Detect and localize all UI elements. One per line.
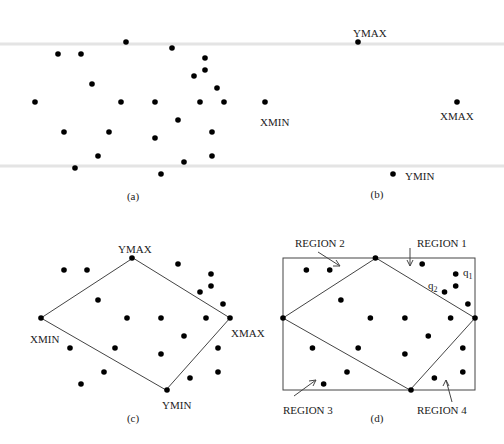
label-xmax-c: XMAX [231, 327, 265, 339]
data-point [61, 129, 67, 135]
data-point [460, 345, 466, 351]
label-q2: q2 [428, 279, 438, 294]
convex-hull-figure: (a) YMAX XMIN XMAX YMIN (b) YMAX XMIN XM… [0, 0, 504, 444]
data-point [425, 333, 431, 339]
data-point [152, 135, 158, 141]
data-point [152, 99, 158, 105]
label-ymax: YMAX [353, 27, 387, 39]
data-point [197, 289, 203, 295]
caption-a: (a) [127, 190, 140, 203]
label-ymax-c: YMAX [118, 243, 152, 255]
data-point [453, 283, 459, 289]
caption-b: (b) [371, 188, 384, 201]
bounding-box [283, 258, 475, 390]
extreme-quadrilateral [41, 258, 230, 390]
data-point [215, 369, 221, 375]
data-point [61, 267, 67, 273]
data-point [129, 255, 135, 261]
data-point [181, 159, 187, 165]
label-region-1: REGION 1 [417, 237, 467, 249]
label-ymin: YMIN [405, 170, 434, 182]
arrow-region-3 [294, 380, 316, 396]
data-point [164, 387, 170, 393]
point-xmax [454, 99, 460, 105]
data-point [327, 267, 333, 273]
data-point [84, 267, 90, 273]
data-point [408, 387, 414, 393]
panel-d-regions [283, 248, 475, 402]
point-ymin [390, 171, 396, 177]
data-point [158, 351, 164, 357]
data-point [373, 255, 379, 261]
point-ymax [355, 39, 361, 45]
data-point [209, 153, 215, 159]
data-point [368, 315, 374, 321]
data-point [197, 99, 203, 105]
data-point [78, 381, 84, 387]
data-point [472, 315, 478, 321]
data-point [442, 289, 448, 295]
label-region-3: REGION 3 [283, 404, 333, 416]
data-point [460, 369, 466, 375]
data-point [344, 369, 350, 375]
data-point [215, 345, 221, 351]
data-point [208, 271, 214, 277]
panel-b-extremes: YMAX XMIN XMAX YMIN [260, 27, 474, 182]
caption-c: (c) [127, 412, 140, 425]
data-point [158, 315, 164, 321]
data-point [158, 171, 164, 177]
label-xmin: XMIN [260, 116, 289, 128]
data-point [448, 315, 454, 321]
data-point [202, 67, 208, 73]
extreme-quadrilateral-d [283, 258, 475, 390]
data-point [95, 153, 101, 159]
data-point [181, 333, 187, 339]
data-point [123, 39, 129, 45]
panel-c-quadrilateral [41, 258, 230, 390]
data-point [355, 345, 361, 351]
data-point [453, 271, 459, 277]
data-point [95, 297, 101, 303]
data-point [402, 315, 408, 321]
data-point [310, 345, 316, 351]
label-region-2: REGION 2 [295, 237, 345, 249]
data-point [465, 301, 471, 307]
data-point [72, 165, 78, 171]
panel-a-point-set [32, 39, 227, 177]
data-point [118, 99, 124, 105]
data-point [214, 85, 220, 91]
data-point [321, 381, 327, 387]
data-point [187, 375, 193, 381]
data-point [32, 99, 38, 105]
data-point [220, 301, 226, 307]
data-point [169, 45, 175, 51]
arrow-region-2 [318, 252, 340, 266]
point-xmin [262, 99, 268, 105]
label-ymin-c: YMIN [162, 399, 191, 411]
data-point [338, 297, 344, 303]
label-q1: q1 [463, 266, 473, 281]
data-point [38, 315, 44, 321]
data-point [402, 351, 408, 357]
data-point [202, 55, 208, 61]
caption-d: (d) [371, 412, 384, 425]
arrow-region-4 [446, 380, 452, 402]
data-point [432, 375, 438, 381]
data-point [191, 73, 197, 79]
data-point [203, 315, 209, 321]
data-point [419, 261, 425, 267]
label-region-4: REGION 4 [417, 404, 467, 416]
data-point [221, 99, 227, 105]
data-point [55, 51, 61, 57]
data-point [227, 315, 233, 321]
data-point [101, 369, 107, 375]
data-point [67, 345, 73, 351]
label-xmin-c: XMIN [30, 333, 59, 345]
data-point [304, 267, 310, 273]
data-point [175, 117, 181, 123]
data-point [124, 315, 130, 321]
data-point [209, 129, 215, 135]
data-point [208, 283, 214, 289]
data-point [112, 345, 118, 351]
data-point [89, 81, 95, 87]
